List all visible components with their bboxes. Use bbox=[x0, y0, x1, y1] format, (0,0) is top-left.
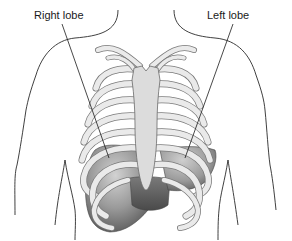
liver-diagram: Right lobe Left lobe bbox=[0, 0, 292, 241]
label-left-lobe: Left lobe bbox=[207, 10, 249, 21]
anatomy-illustration bbox=[0, 0, 292, 241]
label-right-lobe: Right lobe bbox=[34, 10, 84, 21]
